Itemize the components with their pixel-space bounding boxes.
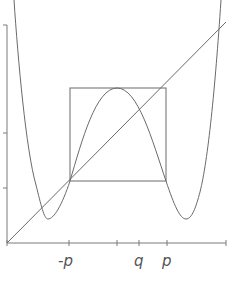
map-diagram: -p q p (0, 0, 228, 285)
label-q: q (134, 254, 144, 269)
plot-canvas (0, 0, 228, 285)
identity-line (7, 22, 226, 243)
label-neg-p: -p (58, 254, 73, 269)
label-p: p (162, 254, 172, 269)
map-curve (14, 0, 221, 219)
